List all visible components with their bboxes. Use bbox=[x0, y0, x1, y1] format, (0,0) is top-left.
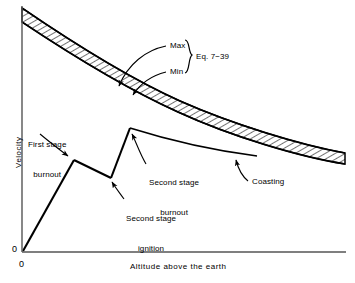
x-origin-label: 0 bbox=[19, 259, 24, 270]
velocity-trajectory-second-stage-boost bbox=[111, 128, 130, 178]
coasting-leader bbox=[236, 160, 248, 181]
coasting-label: Coasting bbox=[252, 177, 284, 187]
first-stage-burnout-line1: First stage bbox=[28, 140, 66, 150]
max-bound-curve bbox=[22, 8, 345, 153]
max-label: Max bbox=[170, 41, 185, 51]
second-stage-burnout-line1: Second stage bbox=[149, 178, 199, 188]
first-stage-burnout-label: First stage burnout bbox=[28, 120, 66, 200]
velocity-band-hatched-region bbox=[22, 8, 345, 164]
second-stage-ignition-line2: ignition bbox=[126, 244, 176, 254]
y-origin-label: 0 bbox=[12, 244, 17, 255]
first-stage-burnout-line2: burnout bbox=[28, 170, 66, 180]
second-stage-ignition-line1: Second stage bbox=[126, 214, 176, 224]
second-stage-ignition-leader bbox=[112, 182, 124, 199]
min-label: Min bbox=[170, 67, 183, 77]
velocity-altitude-diagram: Max Min Eq. 7−39 First stage burnout Sec… bbox=[0, 0, 355, 283]
x-axis-title: Altitude above the earth bbox=[130, 262, 227, 272]
equation-brace bbox=[185, 40, 192, 73]
y-axis-title: Velocity bbox=[14, 136, 24, 168]
velocity-trajectory-stage-coast bbox=[74, 160, 111, 178]
equation-label: Eq. 7−39 bbox=[196, 52, 229, 62]
second-stage-burnout-leader bbox=[132, 134, 146, 164]
